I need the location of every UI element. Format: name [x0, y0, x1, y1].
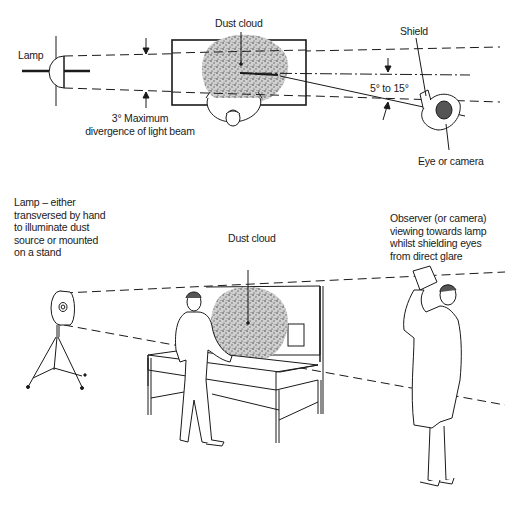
divergence-label-line2: divergence of light beam: [70, 125, 210, 138]
eye-or-camera-label: Eye or camera: [418, 155, 484, 168]
angle-label: 5° to 15°: [370, 82, 409, 95]
divergence-label: 3° Maximum divergence of light beam: [70, 112, 210, 137]
perspective-view-diagram: [27, 266, 506, 486]
observer-top-icon: [420, 90, 460, 130]
lamp-note: Lamp – either transversed by hand to ill…: [14, 196, 124, 259]
observer-note: Observer (or camera) viewing towards lam…: [390, 212, 510, 262]
dust-cloud-label-top: Dust cloud: [215, 17, 263, 30]
lamp-on-stand-icon: [27, 291, 87, 390]
divergence-label-line1: 3° Maximum: [70, 112, 210, 125]
lamp-top-icon: [22, 36, 90, 106]
glare-shield: [413, 266, 437, 290]
lamp-label: Lamp: [18, 49, 43, 62]
work-table-icon: [148, 350, 321, 443]
dust-cloud-label-perspective: Dust cloud: [228, 232, 276, 245]
shield-label: Shield: [400, 25, 428, 38]
observer-figure-icon: [404, 266, 462, 486]
